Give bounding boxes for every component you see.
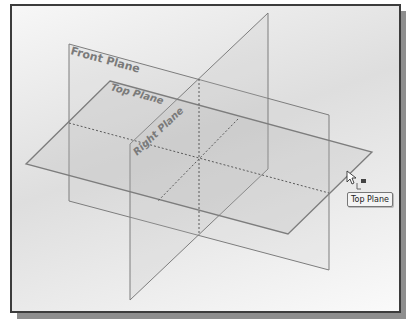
plane-scene: Front Plane Top Plane Right Plane <box>10 4 401 313</box>
arrow-with-plane-select-icon <box>346 170 368 192</box>
hover-tooltip: Top Plane <box>347 192 393 207</box>
graphics-viewport[interactable]: Front Plane Top Plane Right Plane <box>10 4 401 313</box>
